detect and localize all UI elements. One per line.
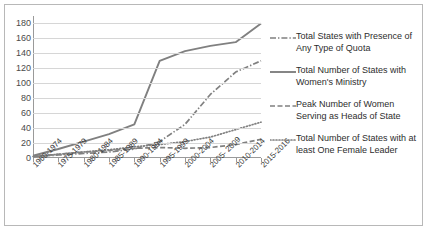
plot-area: 020406080100120140160180 1960-19741975-1… [5, 5, 267, 227]
chart-legend: Total States with Presence of Any Type o… [270, 31, 422, 167]
gridline [33, 38, 261, 39]
gridline [33, 53, 261, 54]
gridline [33, 113, 261, 114]
y-tick-label: 100 [5, 79, 31, 88]
y-tick-label: 160 [5, 34, 31, 43]
legend-item[interactable]: Total Number of States with Women's Mini… [270, 65, 422, 88]
y-tick-label: 40 [5, 124, 31, 133]
y-tick-label: 140 [5, 49, 31, 58]
legend-item[interactable]: Total Number of States with at least One… [270, 133, 422, 156]
gridline [33, 68, 261, 69]
legend-label: Peak Number of Women Serving as Heads of… [296, 99, 420, 122]
chart-container: 020406080100120140160180 1960-19741975-1… [4, 4, 423, 226]
legend-label: Total Number of States with at least One… [296, 133, 420, 156]
gridline [33, 98, 261, 99]
legend-line-icon [270, 32, 296, 44]
legend-line-icon [270, 134, 296, 146]
gridline [33, 23, 261, 24]
x-axis-labels: 1960-19741975-19791980-19841985-19891990… [5, 161, 267, 227]
gridline [33, 128, 261, 129]
y-tick-label: 20 [5, 139, 31, 148]
gridline [33, 83, 261, 84]
series-line [33, 23, 261, 155]
y-tick-label: 180 [5, 19, 31, 28]
legend-line-icon [270, 66, 296, 78]
legend-item[interactable]: Total States with Presence of Any Type o… [270, 31, 422, 54]
legend-label: Total Number of States with Women's Mini… [296, 65, 420, 88]
legend-label: Total States with Presence of Any Type o… [296, 31, 420, 54]
plot-canvas [33, 16, 261, 158]
y-axis-labels: 020406080100120140160180 [5, 16, 31, 158]
y-tick-label: 80 [5, 94, 31, 103]
legend-item[interactable]: Peak Number of Women Serving as Heads of… [270, 99, 422, 122]
legend-line-icon [270, 100, 296, 112]
y-tick-label: 120 [5, 64, 31, 73]
y-tick-label: 60 [5, 109, 31, 118]
series-lines [33, 16, 261, 158]
